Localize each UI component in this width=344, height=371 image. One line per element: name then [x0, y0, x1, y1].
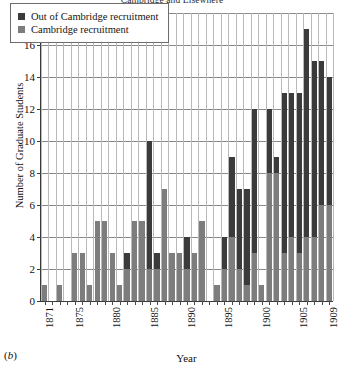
bar-segment-cambridge: [297, 253, 302, 301]
bar-segment-cambridge: [95, 221, 100, 301]
bar-1882: [124, 253, 129, 301]
y-gridline: [41, 45, 333, 46]
x-axis-tick-mark: [150, 301, 151, 305]
x-axis-tick-mark: [75, 301, 76, 305]
legend-swatch-out-icon: [18, 13, 25, 20]
y-axis-tick-mark: [37, 301, 41, 302]
bar-segment-cambridge: [87, 285, 92, 301]
bar-segment-cambridge: [244, 285, 249, 301]
x-gridline: [206, 13, 207, 301]
x-axis-tick-mark: [284, 301, 285, 305]
bar-1897: [237, 189, 242, 301]
bar-1909: [327, 77, 332, 301]
bar-segment-cambridge: [72, 253, 77, 301]
bar-1884: [139, 221, 144, 301]
bar-segment-cambridge: [184, 269, 189, 301]
bar-segment-cambridge: [282, 253, 287, 301]
bar-1901: [267, 109, 272, 301]
bar-segment-cambridge: [57, 285, 62, 301]
chart-legend: Out of Cambridge recruitment Cambridge r…: [10, 3, 169, 43]
bar-1883: [132, 221, 137, 301]
x-axis-tick-mark: [142, 301, 143, 305]
bar-segment-cambridge: [229, 237, 234, 301]
bar-segment-cambridge: [139, 221, 144, 301]
bar-1875: [72, 253, 77, 301]
x-axis-tick-mark: [322, 301, 323, 305]
x-axis-tick-mark: [314, 301, 315, 305]
bar-1904: [289, 93, 294, 301]
bar-segment-cambridge: [132, 221, 137, 301]
x-axis-tick-mark: [67, 301, 68, 305]
x-axis-tick-mark: [52, 301, 53, 305]
x-axis-tick-mark: [97, 301, 98, 305]
bar-segment-cambridge: [274, 173, 279, 301]
bar-1871: [42, 285, 47, 301]
bar-1899: [252, 109, 257, 301]
legend-item-out: Out of Cambridge recruitment: [18, 11, 158, 22]
bar-segment-cambridge: [102, 221, 107, 301]
bar-1888: [169, 253, 174, 301]
x-axis-tick-label: 1885: [148, 307, 159, 328]
bar-1879: [102, 221, 107, 301]
bar-segment-out-of-cambridge: [184, 237, 189, 269]
x-axis-tick-mark: [90, 301, 91, 305]
bar-segment-cambridge: [312, 237, 317, 301]
bar-1877: [87, 285, 92, 301]
x-gridline: [48, 13, 49, 301]
bar-1873: [57, 285, 62, 301]
legend-label-cambridge: Cambridge recruitment: [31, 24, 129, 35]
x-axis-tick-mark: [202, 301, 203, 305]
bar-1878: [95, 221, 100, 301]
bar-1892: [199, 221, 204, 301]
bar-segment-cambridge: [147, 269, 152, 301]
x-gridline: [86, 13, 87, 301]
x-gridline: [41, 13, 42, 301]
figure-panel: Cambridge and Elsewhere Number of Gradua…: [0, 0, 344, 371]
bar-segment-cambridge: [289, 237, 294, 301]
bar-segment-out-of-cambridge: [154, 253, 159, 269]
bar-1894: [214, 285, 219, 301]
bar-1905: [297, 93, 302, 301]
legend-item-cambridge: Cambridge recruitment: [18, 24, 158, 35]
x-axis-tick-mark: [224, 301, 225, 305]
bar-1900: [259, 285, 264, 301]
y-gridline: [41, 77, 333, 78]
x-axis-tick-mark: [180, 301, 181, 305]
x-axis-tick-mark: [292, 301, 293, 305]
bar-1889: [177, 253, 182, 301]
x-axis-tick-mark: [217, 301, 218, 305]
y-axis-title: Number of Graduate Students: [14, 31, 25, 261]
bar-segment-out-of-cambridge: [327, 77, 332, 205]
x-axis-tick-mark: [329, 301, 330, 305]
bar-segment-out-of-cambridge: [252, 109, 257, 253]
x-gridline: [116, 13, 117, 301]
bar-segment-out-of-cambridge: [229, 157, 234, 237]
bar-segment-out-of-cambridge: [304, 29, 309, 237]
x-axis-tick-mark: [262, 301, 263, 305]
bar-segment-out-of-cambridge: [124, 253, 129, 269]
x-axis-tick-mark: [209, 301, 210, 305]
bar-segment-out-of-cambridge: [147, 141, 152, 269]
bar-1891: [192, 253, 197, 301]
bar-1903: [282, 93, 287, 301]
x-axis-title: Year: [40, 352, 333, 364]
bar-1880: [110, 253, 115, 301]
x-axis-tick-mark: [172, 301, 173, 305]
plot-area: 0246810121416181871187518801885189018951…: [40, 13, 333, 302]
x-axis-tick-mark: [187, 301, 188, 305]
x-axis-tick-mark: [299, 301, 300, 305]
bar-1881: [117, 285, 122, 301]
bar-segment-out-of-cambridge: [244, 189, 249, 285]
bar-segment-cambridge: [319, 205, 324, 301]
bar-segment-out-of-cambridge: [297, 93, 302, 253]
bar-1902: [274, 157, 279, 301]
bar-segment-cambridge: [110, 253, 115, 301]
bar-segment-cambridge: [237, 269, 242, 301]
bar-1886: [154, 253, 159, 301]
x-axis-tick-mark: [307, 301, 308, 305]
x-axis-tick-mark: [165, 301, 166, 305]
x-axis-tick-label: 1905: [298, 307, 309, 328]
x-axis-tick-label: 1875: [73, 307, 84, 328]
bar-segment-cambridge: [162, 189, 167, 301]
bar-1896: [229, 157, 234, 301]
